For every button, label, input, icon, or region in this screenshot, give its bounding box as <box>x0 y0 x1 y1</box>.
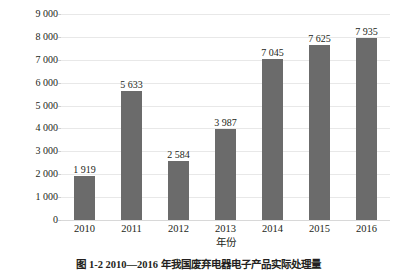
y-axis-tick-label: 5 000 <box>16 101 58 111</box>
bar-value-label: 5 633 <box>104 79 160 90</box>
plot-area: 1 9195 6332 5843 9877 0457 6257 935 <box>61 14 390 220</box>
y-axis-tick-label: 7 000 <box>16 55 58 65</box>
y-axis-tick-label: 2 000 <box>16 169 58 179</box>
bar[interactable] <box>121 91 142 220</box>
y-axis-tick-label: 6 000 <box>16 78 58 88</box>
y-axis-tick-labels: 01 0002 0003 0004 0005 0006 0007 0008 00… <box>16 0 58 252</box>
bar-value-label: 7 045 <box>245 47 301 58</box>
bar[interactable] <box>168 161 189 220</box>
y-axis-tickmark <box>58 106 61 107</box>
x-axis-title: 年份 <box>61 236 390 250</box>
y-axis-tickmark <box>58 37 61 38</box>
bar-value-label: 2 584 <box>151 149 207 160</box>
gridline <box>61 60 390 61</box>
y-axis-tick-label: 4 000 <box>16 123 58 133</box>
figure-caption: 图 1-2 2010—2016 年我国废弃电器电子产品实际处理量 <box>0 258 397 271</box>
y-axis-tickmark <box>58 151 61 152</box>
bar[interactable] <box>262 59 283 220</box>
gridline <box>61 106 390 107</box>
y-axis-tick-label: 0 <box>16 215 58 225</box>
y-axis-tickmark <box>58 83 61 84</box>
x-axis-tick-labels: 2010201120122013201420152016 <box>61 222 390 236</box>
y-axis-tick-label: 3 000 <box>16 146 58 156</box>
y-axis-tick-label: 1 000 <box>16 192 58 202</box>
y-axis-tickmark <box>58 220 61 221</box>
y-axis-tick-label: 8 000 <box>16 32 58 42</box>
gridline <box>61 14 390 15</box>
y-axis-tickmark <box>58 197 61 198</box>
bar-chart: 实际处理量/万台 01 0002 0003 0004 0005 0006 000… <box>0 0 397 252</box>
x-axis-tick-label: 2016 <box>339 222 395 236</box>
bar-value-label: 3 987 <box>198 117 254 128</box>
y-axis-tickmark <box>58 128 61 129</box>
y-axis-tickmark <box>58 14 61 15</box>
y-axis-tick-label: 9 000 <box>16 9 58 19</box>
bar-value-label: 1 919 <box>57 164 113 175</box>
y-axis-tickmark <box>58 60 61 61</box>
gridline <box>61 220 390 221</box>
bar[interactable] <box>74 176 95 220</box>
bar[interactable] <box>215 129 236 220</box>
bar[interactable] <box>356 38 377 220</box>
bar-value-label: 7 935 <box>339 26 395 37</box>
bar[interactable] <box>309 45 330 220</box>
y-axis-title: 实际处理量/万台 <box>2 0 16 42</box>
